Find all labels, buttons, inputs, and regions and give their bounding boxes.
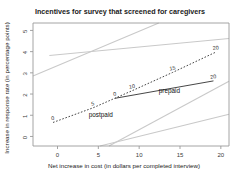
chart-figure: 05101520012345 05101520postpaid020prepai…	[0, 0, 240, 175]
ray-upper-right	[49, 38, 229, 55]
point-label-prepaid-0: 0	[113, 91, 117, 97]
chart-canvas: 05101520012345 05101520postpaid020prepai…	[0, 0, 240, 175]
y-tick-label: 1	[22, 114, 28, 118]
point-label-postpaid-0: 0	[51, 115, 55, 121]
y-tick-label: 2	[22, 93, 28, 97]
x-axis-label: Net increase in cost (in dollars per com…	[48, 162, 200, 169]
ray-lower-flat	[100, 114, 229, 146]
x-tick-label: 0	[56, 152, 60, 158]
point-label-postpaid-5: 5	[91, 100, 95, 106]
x-tick-label: 15	[177, 152, 184, 158]
chart-title: Incentives for survey that screened for …	[35, 7, 205, 16]
ray-upper-left	[33, 23, 159, 76]
y-tick-label: 0	[22, 135, 28, 139]
y-tick-label: 4	[22, 50, 28, 54]
series-label-postpaid: postpaid	[89, 111, 114, 119]
point-label-postpaid-15: 15	[169, 65, 176, 72]
y-tick-label: 5	[22, 29, 28, 33]
x-tick-label: 10	[136, 152, 143, 158]
point-label-postpaid-20: 20	[212, 44, 219, 51]
point-labels-group: 05101520postpaid020prepaid	[51, 44, 219, 121]
y-tick-label: 3	[22, 72, 28, 76]
x-tick-label: 5	[97, 152, 101, 158]
y-axis-label: Increase in response rate (in percentage…	[3, 22, 10, 153]
point-label-prepaid-20: 20	[210, 73, 217, 80]
series-label-prepaid: prepaid	[159, 87, 181, 95]
x-tick-label: 20	[217, 152, 224, 158]
point-label-postpaid-10: 10	[128, 83, 135, 90]
